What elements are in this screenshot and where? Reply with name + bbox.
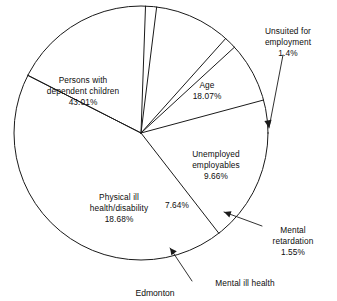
- arrowhead-mental-ill-health: [170, 248, 177, 255]
- slice-label-physical-ill-health-disability: Physical ill health/disability 18.68%: [90, 192, 149, 224]
- label-unemployed-line1: Unemployed: [192, 149, 240, 159]
- label-physical-line2: health/disability: [90, 203, 149, 213]
- label-retardation-line1: Mental: [280, 225, 306, 235]
- slice-label-unemployed-employables: Unemployed employables 9.66%: [192, 149, 240, 181]
- label-persons-line1: Persons with: [59, 75, 108, 85]
- pie-chart-figure: Persons with dependent children 43.01% A…: [0, 0, 337, 301]
- label-persons-percent: 43.01%: [69, 97, 98, 107]
- label-unemployed-percent: 9.66%: [204, 171, 229, 181]
- label-unsuited-line1: Unsuited for: [265, 26, 311, 36]
- label-retardation-line2: retardation: [273, 236, 314, 246]
- slice-label-age: Age 18.07%: [193, 80, 222, 101]
- pie-slice-divider-6: [141, 133, 219, 233]
- label-mental-ill-health: Mental ill health: [215, 278, 275, 288]
- slice-label-mental-retardation: Mental retardation 1.55%: [273, 225, 314, 257]
- label-unemployed-line2: employables: [192, 160, 240, 170]
- label-mental-ill-health-percent: 7.64%: [165, 200, 190, 210]
- slice-label-persons-with-dependent-children: Persons with dependent children 43.01%: [47, 75, 120, 107]
- arrowhead-mental-retardation: [224, 211, 232, 217]
- label-unsuited-line2: employment: [265, 37, 312, 47]
- label-physical-percent: 18.68%: [105, 214, 134, 224]
- label-unsuited-percent: 1.4%: [278, 48, 298, 58]
- pie-chart-svg: Persons with dependent children 43.01% A…: [0, 0, 337, 301]
- chart-caption: Edmonton: [135, 288, 174, 298]
- leader-line-unsuited-for-employment: [269, 55, 283, 128]
- label-physical-line1: Physical ill: [99, 192, 139, 202]
- label-persons-line2: dependent children: [47, 86, 120, 96]
- label-retardation-percent: 1.55%: [281, 247, 306, 257]
- label-age-percent: 18.07%: [193, 91, 222, 101]
- label-age-line1: Age: [199, 80, 214, 90]
- slice-label-unsuited-for-employment: Unsuited for employment 1.4%: [265, 26, 312, 58]
